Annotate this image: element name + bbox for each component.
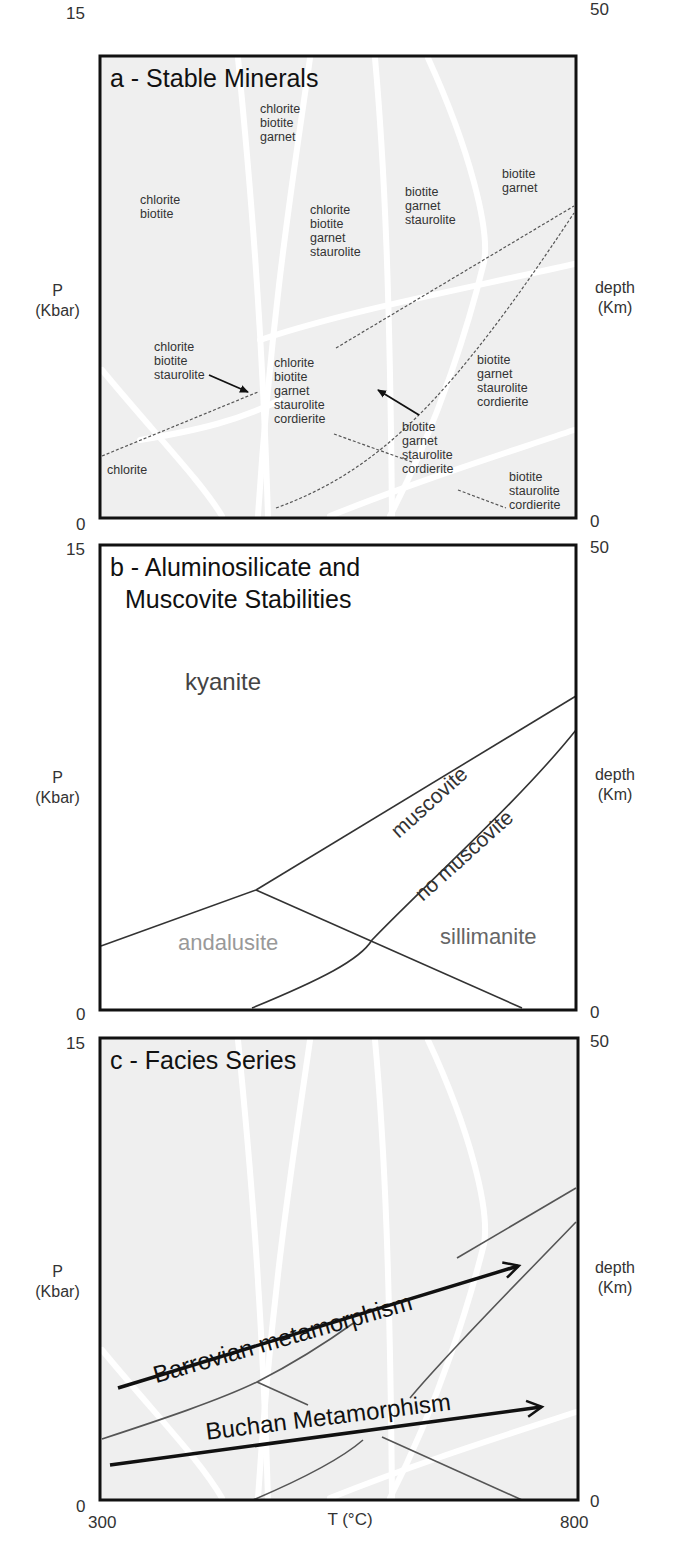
kyanite-label: kyanite bbox=[185, 668, 261, 696]
field-label: biotite staurolite cordierite bbox=[509, 470, 560, 512]
panel-c-title: c - Facies Series bbox=[110, 1045, 296, 1075]
sillimanite-label: sillimanite bbox=[440, 924, 537, 950]
panel-b-title-line2: Muscovite Stabilities bbox=[125, 584, 351, 614]
field-label: chlorite bbox=[107, 463, 147, 477]
field-label: chlorite biotite staurolite bbox=[154, 340, 205, 382]
panel-a-plot bbox=[100, 56, 576, 518]
field-label: biotite garnet staurolite cordierite bbox=[477, 353, 528, 409]
field-label: chlorite biotite garnet staurolite cordi… bbox=[274, 356, 325, 426]
field-label: biotite garnet bbox=[502, 167, 537, 195]
field-label: chlorite biotite garnet bbox=[260, 102, 300, 144]
panel-a-title: a - Stable Minerals bbox=[110, 63, 318, 93]
field-label: biotite garnet staurolite cordierite bbox=[402, 420, 453, 476]
field-label: biotite garnet staurolite bbox=[405, 185, 456, 227]
andalusite-label: andalusite bbox=[178, 930, 278, 956]
field-label: chlorite biotite garnet staurolite bbox=[310, 203, 361, 259]
panel-c-plot bbox=[100, 1038, 578, 1500]
field-label: chlorite biotite bbox=[140, 193, 180, 221]
panel-b-title-line1: b - Aluminosilicate and bbox=[110, 552, 360, 582]
